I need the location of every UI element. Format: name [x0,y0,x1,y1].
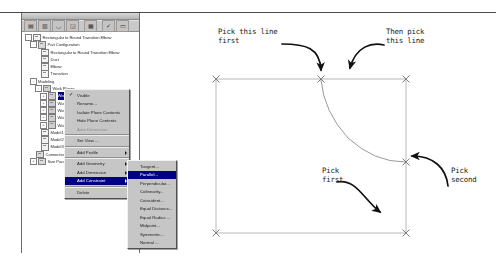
check-icon: ✓ [69,93,73,97]
submenu-item[interactable]: Parallel... [128,171,176,180]
leader-arrow-pick-this-line [282,44,321,70]
browser-toolbar[interactable]: ▤▥◡◲▦✓▭ [22,20,139,32]
tree-item[interactable]: Elbow [23,63,138,70]
context-menu-item-label: Auto Dimension [77,127,107,132]
context-menu-item-label: Add Dimension [77,170,106,175]
context-menu-item[interactable]: Delete [65,188,129,197]
tree-item[interactable]: Transition [23,70,138,77]
submenu-item[interactable]: Normal ... [128,239,176,248]
context-menu-item[interactable]: Add Dimension [65,168,129,177]
tree-spacer [30,152,35,157]
submenu-item-label: Coincident... [140,198,164,203]
submenu-item[interactable]: Tangent... [128,162,176,171]
tree-spacer [35,145,40,150]
browser-titlebar [22,13,139,20]
collapse-icon[interactable]: - [25,34,32,41]
expand-icon[interactable]: + [40,100,47,107]
tree-item[interactable]: -Rectangular to Round Transition Elbow [23,34,138,41]
submenu-item-label: Equal Radius ... [140,215,170,220]
submenu-item[interactable]: Colinearity... [128,188,176,197]
tree-item-label: Elbow [51,63,62,70]
expand-icon[interactable]: + [40,93,47,100]
context-menu-item-label: Set View ... [77,138,99,143]
submenu-item[interactable]: Equal Radius ... [128,213,176,222]
sketch-icon[interactable]: ▤ [24,20,37,32]
sketch-arc [321,80,405,162]
submenu-item-label: Parallel... [140,172,158,177]
context-menu-item-label: Visible [77,93,90,98]
context-menu-item[interactable]: ✓Visible [65,91,129,100]
submenu-item-label: Equal Distance... [140,206,172,211]
tree-spacer [35,50,40,55]
submenu-item-label: Midpoint... [140,223,160,228]
collapse-icon[interactable]: - [30,41,37,48]
expand-icon[interactable]: + [40,107,47,114]
tree-item-label: Rectangular to Round Transition Elbow [43,34,112,41]
tree-item-label: Modeling [38,78,54,85]
annotation-then-pick-this-line: Then pick this line [386,27,424,45]
context-menu-item-label: Add Profile [77,150,98,155]
context-menu-item-label: Hide Plane Contents [77,118,116,123]
add-constraint-submenu[interactable]: Tangent...Parallel...Perpendicular...Col… [127,160,177,249]
tree-item-label: Part Configuration [48,41,80,48]
context-menu-item[interactable]: Isolate Plane Contents [65,108,129,117]
context-menu-item-label: Add Geometry [77,161,105,166]
submenu-item[interactable]: Perpendicular... [128,179,176,188]
context-menu-item-label: Add Constraint [77,178,105,183]
tree-item-label: Transition [51,70,68,77]
sketch-diagram [196,12,496,266]
submenu-item-label: Tangent... [140,164,159,169]
submenu-item-label: Perpendicular... [140,181,170,186]
expand-icon[interactable]: + [30,158,37,165]
context-menu-item-label: Delete [77,190,89,195]
context-menu-item[interactable]: Add Constraint [65,177,129,186]
shell-icon[interactable]: ▦ [84,20,97,32]
tree-item[interactable]: -Modeling [23,78,138,85]
context-menu[interactable]: ✓VisibleRename...Isolate Plane ContentsH… [64,89,130,199]
annotation-pick-this-line-first: Pick this line first [218,27,278,45]
tree-item-label: Rectangular to Round Transition Elbow [51,49,120,56]
context-menu-item[interactable]: Rename... [65,100,129,109]
doc-node-icon [41,70,49,78]
collapse-icon[interactable]: - [35,85,42,92]
submenu-item-label: Normal ... [140,240,159,245]
submenu-arrow-icon [125,151,127,155]
expand-icon[interactable]: + [40,122,47,129]
leader-arrow-then-pick [350,44,384,68]
extrude-icon[interactable]: ▥ [38,20,51,32]
finish-icon[interactable]: ▭ [116,20,129,32]
collapse-icon[interactable]: - [30,78,37,85]
context-menu-item: Auto Dimension [65,125,129,134]
tree-spacer [35,130,40,135]
context-menu-item[interactable]: Hide Plane Contents [65,117,129,126]
context-menu-item-label: Rename... [77,101,97,106]
tree-item-label: Model1 [51,129,64,136]
toolbar-separator [98,21,101,31]
submenu-item[interactable]: Coincident... [128,196,176,205]
submenu-item[interactable]: Equal Distance... [128,205,176,214]
revolve-icon[interactable]: ◡ [52,20,65,32]
tree-item[interactable]: -Part Configuration [23,41,138,48]
tree-spacer [35,72,40,77]
annotation-pick-first: Pick first [322,166,343,184]
submenu-item-label: Colinearity... [140,189,164,194]
submenu-item[interactable]: Symmetric... [128,230,176,239]
leader-arrow-pick-first [337,182,380,212]
tree-item[interactable]: Duct [23,56,138,63]
submenu-item-label: Symmetric... [140,232,164,237]
tree-spacer [35,137,40,142]
context-menu-item[interactable]: Add Profile [65,148,129,157]
leader-arrow-pick-second [412,156,448,186]
plane-node-icon [48,121,56,129]
tree-spacer [35,64,40,69]
expand-icon[interactable]: + [40,114,47,121]
annotation-pick-second: Pick second [451,166,477,184]
context-menu-item[interactable]: Set View ... [65,137,129,146]
submenu-item[interactable]: Midpoint... [128,222,176,231]
check-icon[interactable]: ✓ [102,20,115,32]
hole-icon[interactable]: ◲ [66,20,79,32]
folder-node-icon [38,158,46,166]
context-menu-item[interactable]: Add Geometry [65,160,129,169]
tree-item[interactable]: Rectangular to Round Transition Elbow [23,49,138,56]
context-menu-item-label: Isolate Plane Contents [77,110,120,115]
